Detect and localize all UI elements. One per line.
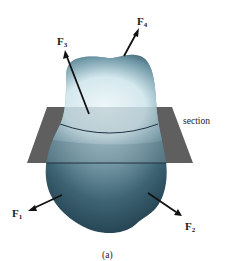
force-f1: F1 [12, 195, 62, 221]
figure-caption: (a) [102, 250, 113, 261]
svg-text:F1: F1 [12, 207, 23, 221]
figure: F4 F3 F1 F2 section (a) [0, 0, 226, 261]
section-label: section [183, 116, 210, 126]
svg-text:F2: F2 [185, 220, 196, 234]
free-body-diagram: F4 F3 F1 F2 section (a) [0, 0, 226, 261]
force-f4: F4 [124, 15, 148, 56]
svg-text:F4: F4 [137, 15, 148, 29]
svg-text:F3: F3 [57, 35, 68, 49]
